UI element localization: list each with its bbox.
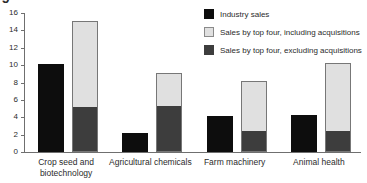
legend-label: Industry sales	[220, 10, 269, 19]
legend-swatch-icon	[204, 9, 214, 19]
bar-top-four-stacked	[156, 73, 182, 152]
legend-item: Industry sales	[204, 9, 362, 19]
bar-industry-sales	[38, 64, 64, 152]
corner-artifact-glyph: 5	[2, 0, 9, 4]
y-axis-tick	[21, 135, 24, 136]
y-axis-tick	[21, 117, 24, 118]
bar-segment-excluding-acquisitions	[242, 131, 266, 151]
y-axis-tick-label: 2	[14, 131, 18, 139]
bar-segment-including-acquisitions	[242, 82, 266, 131]
x-axis-category-label: Farm machinery	[187, 157, 283, 168]
bar-top-four-stacked	[241, 81, 267, 152]
bar-industry-sales	[291, 115, 317, 152]
bar-industry-sales	[207, 116, 233, 152]
legend-swatch-icon	[204, 45, 214, 55]
y-axis-tick	[21, 48, 24, 49]
legend-label: Sales by top four, including acquisition…	[220, 28, 360, 37]
y-axis-tick-label: 14	[9, 26, 18, 34]
bar-segment-including-acquisitions	[326, 64, 350, 132]
bar-segment-including-acquisitions	[157, 74, 181, 106]
y-axis-tick-label: 0	[14, 148, 18, 156]
y-axis-tick	[21, 65, 24, 66]
y-axis-tick-label: 8	[14, 79, 18, 87]
bar-segment-including-acquisitions	[73, 22, 97, 107]
bar-industry-sales	[122, 133, 148, 152]
x-axis-category-label: Crop seed and biotechnology	[18, 157, 114, 178]
bar-chart: 5 0246810121416 Crop seed and biotechnol…	[0, 0, 367, 183]
y-axis-tick-label: 4	[14, 113, 18, 121]
y-axis-tick	[21, 83, 24, 84]
x-axis-line	[24, 152, 361, 153]
legend-label: Sales by top four, excluding acquisition…	[220, 46, 362, 55]
y-axis-line	[24, 13, 25, 152]
legend-item: Sales by top four, including acquisition…	[204, 27, 362, 37]
y-axis-tick	[21, 152, 24, 153]
bar-segment-excluding-acquisitions	[326, 131, 350, 151]
legend-item: Sales by top four, excluding acquisition…	[204, 45, 362, 55]
y-axis-tick-label: 10	[9, 61, 18, 69]
y-axis-tick	[21, 30, 24, 31]
bar-top-four-stacked	[325, 63, 351, 152]
x-axis-category-label: Agricultural chemicals	[102, 157, 198, 168]
chart-legend: Industry salesSales by top four, includi…	[204, 9, 362, 55]
y-axis-tick	[21, 13, 24, 14]
y-axis-tick	[21, 100, 24, 101]
y-axis-tick-label: 16	[9, 9, 18, 17]
bar-segment-excluding-acquisitions	[73, 107, 97, 151]
bar-top-four-stacked	[72, 21, 98, 152]
x-axis-category-label: Animal health	[271, 157, 367, 168]
y-axis-tick-label: 12	[9, 44, 18, 52]
bar-segment-excluding-acquisitions	[157, 106, 181, 151]
y-axis-tick-label: 6	[14, 96, 18, 104]
legend-swatch-icon	[204, 27, 214, 37]
